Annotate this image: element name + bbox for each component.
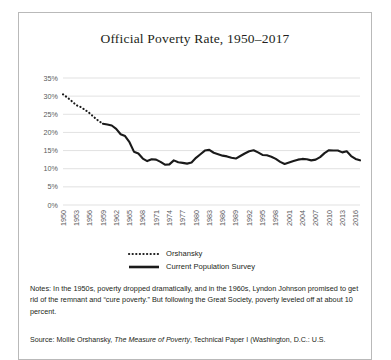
notes-text: Notes: In the 1950s, poverty dropped dra… [30, 283, 362, 317]
x-tick-label: 1953 [72, 210, 81, 226]
y-tick-label: 0% [48, 201, 59, 210]
legend-label-orshansky: Orshansky [166, 249, 202, 258]
x-tick-label: 1962 [112, 210, 121, 226]
chart-plot-area: 0%5%10%15%20%25%30%35% 19501953195619591… [27, 53, 367, 249]
x-tick-label: 1983 [205, 210, 214, 226]
series-current-population-survey [103, 124, 360, 165]
source-suffix: , Technical Paper I (Washington, D.C.: U… [190, 336, 326, 344]
x-tick-label: 1977 [178, 210, 187, 226]
x-tick-label: 2007 [311, 210, 320, 226]
x-tick-label: 1992 [245, 210, 254, 226]
y-tick-label: 20% [44, 128, 59, 137]
chart-legend: Orshansky Current Population Survey [19, 247, 371, 273]
figure-notes: Notes: In the 1950s, poverty dropped dra… [30, 283, 362, 317]
x-tick-label: 1968 [138, 210, 147, 226]
x-tick-label: 1989 [231, 210, 240, 226]
figure-source: Source: Mollie Orshansky, The Measure of… [30, 335, 370, 345]
x-tick-label: 2013 [338, 210, 347, 226]
y-tick-label: 30% [44, 92, 59, 101]
data-series-group [63, 94, 360, 164]
gridlines [63, 78, 360, 205]
x-tick-label: 2010 [325, 210, 334, 226]
poverty-rate-line-chart: 0%5%10%15%20%25%30%35% 19501953195619591… [27, 53, 367, 249]
legend-label-current-population-survey: Current Population Survey [166, 262, 255, 271]
x-tick-label: 1971 [152, 210, 161, 226]
x-tick-label: 1950 [59, 210, 68, 226]
x-tick-label: 1995 [258, 210, 267, 226]
x-tick-label: 1959 [99, 210, 108, 226]
x-tick-label: 1974 [165, 210, 174, 226]
y-tick-label: 35% [44, 74, 59, 83]
figure-card: Official Poverty Rate, 1950–2017 0%5%10%… [18, 12, 372, 360]
source-prefix: Source: Mollie Orshansky, [30, 336, 114, 344]
legend-item-orshansky: Orshansky [19, 247, 371, 260]
legend-swatch-solid-icon [127, 262, 161, 272]
x-tick-label: 1998 [271, 210, 280, 226]
y-axis-tick-labels: 0%5%10%15%20%25%30%35% [44, 74, 59, 210]
page-title: Official Poverty Rate, 1950–2017 [19, 31, 371, 47]
legend-swatch-dotted-icon [127, 249, 161, 259]
x-axis-tick-labels: 1950195319561959196219651968197119741977… [59, 210, 361, 226]
y-tick-label: 5% [48, 182, 59, 191]
series-orshansky [63, 94, 103, 123]
x-tick-label: 1986 [218, 210, 227, 226]
x-tick-label: 1980 [192, 210, 201, 226]
x-tick-label: 2004 [298, 210, 307, 226]
x-tick-label: 2016 [351, 210, 360, 226]
y-tick-label: 10% [44, 164, 59, 173]
legend-item-current-population-survey: Current Population Survey [19, 260, 371, 273]
y-tick-label: 25% [44, 110, 59, 119]
x-tick-label: 1965 [125, 210, 134, 226]
y-tick-label: 15% [44, 146, 59, 155]
x-tick-label: 1956 [85, 210, 94, 226]
source-title: The Measure of Poverty [114, 336, 190, 344]
x-tick-label: 2001 [285, 210, 294, 226]
